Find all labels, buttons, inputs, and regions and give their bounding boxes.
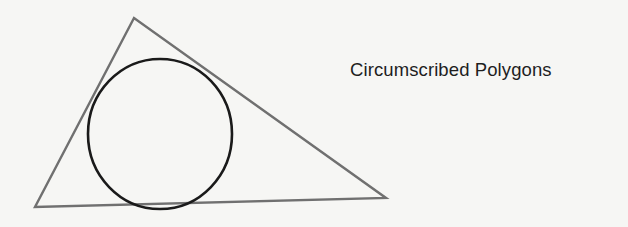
figure-caption: Circumscribed Polygons xyxy=(350,59,552,81)
triangle xyxy=(35,18,386,207)
inscribed-circle xyxy=(88,59,232,209)
circumscribed-polygon-figure xyxy=(0,0,628,227)
